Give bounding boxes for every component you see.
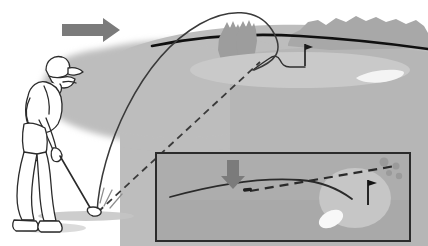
putting-green-surface	[190, 52, 410, 88]
golfer-shoe-back	[13, 220, 39, 231]
golfer-cap	[46, 57, 70, 78]
club-head	[87, 207, 101, 216]
inset-detail-view	[156, 153, 410, 241]
golfer-shoe-front	[38, 221, 62, 232]
golf-trajectory-illustration	[0, 0, 428, 246]
illustration-canvas	[0, 0, 428, 246]
